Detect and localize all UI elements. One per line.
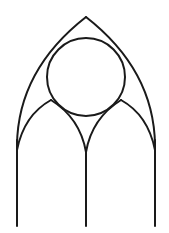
tracery-drawing (0, 0, 169, 233)
gothic-window-diagram (0, 0, 169, 233)
inner-arch-left-inner (51, 100, 86, 152)
inner-arch-right-inner (86, 100, 121, 152)
